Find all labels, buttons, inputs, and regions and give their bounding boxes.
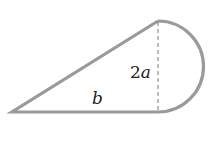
figure-svg: 2a b (0, 0, 210, 143)
label-base: b (92, 88, 103, 108)
semicircle-arc (158, 21, 204, 112)
label-height: 2a (130, 62, 151, 82)
diagram-canvas: 2a b (0, 0, 210, 143)
